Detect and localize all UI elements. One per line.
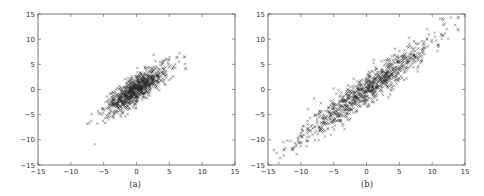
scatter-points: [273, 16, 460, 164]
figure: −15−10−5051015−15−10−5051015(a) −15−10−5…: [0, 0, 484, 196]
y-tick-label: 10: [26, 36, 35, 44]
y-tick-label: −10: [20, 136, 35, 144]
x-tick-label: 0: [364, 168, 368, 176]
y-tick-label: 0: [31, 86, 35, 94]
x-tick-label: 5: [397, 168, 401, 176]
y-tick-label: −5: [255, 111, 265, 119]
y-tick-label: 10: [256, 36, 265, 44]
x-tick-label: −5: [329, 168, 339, 176]
x-tick-label: 15: [461, 168, 470, 176]
x-tick-label: 10: [198, 168, 207, 176]
scatter-panel-a: −15−10−5051015−15−10−5051015(a): [20, 11, 239, 190]
y-tick-label: −10: [250, 136, 265, 144]
y-tick-label: 5: [261, 61, 265, 69]
y-tick-label: 15: [256, 11, 265, 19]
y-tick-label: −15: [250, 162, 265, 170]
x-tick-label: −10: [63, 168, 78, 176]
y-tick-label: −5: [25, 111, 35, 119]
y-tick-label: 5: [31, 61, 35, 69]
scatter-panel-b: −15−10−5051015−15−10−5051015(b): [250, 11, 469, 190]
y-tick-label: −15: [20, 162, 35, 170]
panel-caption: (b): [361, 179, 373, 189]
panel-caption: (a): [129, 179, 141, 189]
y-tick-label: 15: [26, 11, 35, 19]
x-tick-label: 5: [167, 168, 171, 176]
x-tick-label: 0: [134, 168, 138, 176]
x-tick-label: 10: [428, 168, 437, 176]
x-tick-label: −10: [293, 168, 308, 176]
y-tick-label: 0: [261, 86, 265, 94]
x-tick-label: 15: [231, 168, 240, 176]
x-tick-label: −5: [99, 168, 109, 176]
scatter-points: [86, 52, 187, 146]
